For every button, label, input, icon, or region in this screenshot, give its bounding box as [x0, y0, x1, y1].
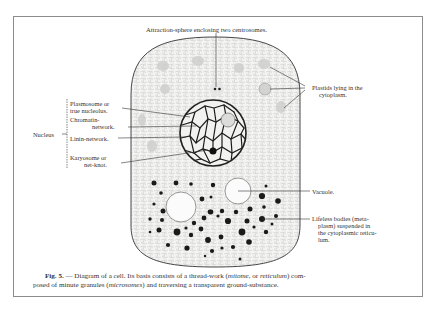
nucleus: [180, 100, 246, 166]
label-plastids-1: Plastids lying in the: [312, 84, 363, 91]
vacuole-left: [166, 192, 196, 222]
caption-text-3: ) com-: [287, 272, 306, 280]
label-chromatin-1: Chromatin-: [70, 116, 99, 123]
label-karyosome-1: Karyosome or: [70, 154, 106, 161]
cell-diagram: [0, 0, 438, 312]
label-chromatin-2: network.: [92, 123, 115, 130]
caption-term-reticulum: reticulum: [260, 272, 287, 280]
label-lifeless-2: plasm) suspended in: [318, 222, 370, 229]
caption-text-4: posed of minute granules (: [33, 281, 109, 289]
karyosome: [210, 148, 217, 155]
label-lifeless-3: the cytoplasmic reticu-: [318, 229, 377, 236]
caption-fig-number: Fig. 5.: [45, 272, 64, 280]
label-plastids-2: cytoplasm.: [319, 91, 347, 98]
label-nucleus: Nucleus: [33, 131, 54, 138]
figure-caption: Fig. 5. — Diagram of a cell. Its basis c…: [33, 272, 393, 290]
label-plasmosome-1: Plasmosome or: [70, 100, 109, 107]
label-karyosome-2: net-knot.: [84, 161, 107, 168]
caption-text-2: , or: [249, 272, 260, 280]
label-linin: Linin-network.: [70, 135, 109, 142]
label-vacuole: Vacuole.: [312, 188, 334, 195]
caption-term-microsomes: microsomes: [109, 281, 143, 289]
label-plasmosome-2: true nucleolus.: [70, 107, 108, 114]
label-lifeless-4: lum.: [318, 236, 330, 243]
caption-term-mitome: mitome: [228, 272, 249, 280]
label-attraction-sphere: Attraction-sphere enclosing two centroso…: [146, 26, 267, 33]
caption-dash: —: [64, 272, 75, 280]
label-lifeless-1: Lifeless bodies (meta-: [312, 215, 369, 222]
caption-text-5: ) and traversing a transparent ground-su…: [142, 281, 278, 289]
attraction-sphere: [210, 82, 224, 96]
caption-text-1: Diagram of a cell. Its basis consists of…: [74, 272, 227, 280]
plasmosome: [221, 113, 235, 127]
